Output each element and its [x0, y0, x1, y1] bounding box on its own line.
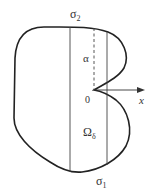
x-axis-arrowhead-icon — [137, 87, 145, 93]
sigma-2-label: σ2 — [70, 7, 80, 23]
sigma-1-label: σ1 — [96, 174, 106, 190]
origin-label: 0 — [85, 94, 90, 105]
x-axis-label: x — [138, 94, 144, 106]
domain-diagram: σ2 σ1 α 0 Ωδ x — [0, 0, 152, 192]
omega-delta-label: Ωδ — [83, 125, 96, 141]
alpha-label: α — [83, 52, 89, 64]
region-boundary — [14, 27, 130, 172]
